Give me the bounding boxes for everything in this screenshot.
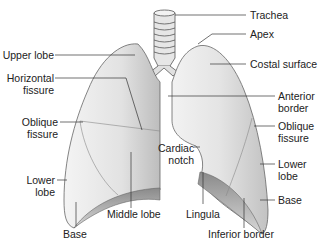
- label-anterior-border: Anteriorborder: [278, 90, 315, 114]
- right-lung-shape: [64, 44, 160, 228]
- label-inferior-border: Inferior border: [208, 228, 274, 240]
- label-lower-lobe-left-lung: Lowerlobe: [278, 158, 307, 182]
- label-oblique-fissure-right-lung: Obliquefissure: [0, 116, 58, 140]
- trachea-shape: [150, 10, 178, 76]
- label-base-left-lung: Base: [278, 194, 302, 206]
- label-base-right-lung: Base: [63, 228, 87, 240]
- left-lung-shape: [172, 45, 268, 234]
- label-trachea: Trachea: [250, 9, 288, 21]
- label-lower-lobe-right-lung: Lowerlobe: [0, 174, 55, 198]
- label-lingula: Lingula: [186, 208, 220, 220]
- label-apex: Apex: [250, 28, 274, 40]
- label-costal-surface: Costal surface: [250, 58, 317, 70]
- label-horizontal-fissure: Horizontalfissure: [0, 72, 54, 96]
- label-oblique-fissure-left-lung: Obliquefissure: [278, 120, 314, 144]
- label-cardiac-notch: Cardiacnotch: [158, 142, 194, 166]
- label-middle-lobe: Middle lobe: [107, 208, 161, 220]
- label-upper-lobe: Upper lobe: [0, 49, 54, 61]
